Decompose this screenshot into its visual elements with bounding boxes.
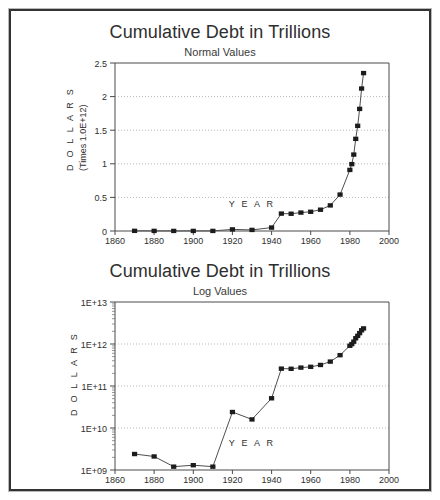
data-point-marker — [230, 227, 235, 231]
x-axis-title-normal: Y E A R — [115, 199, 389, 209]
x-ticks-normal: 1860 1880 1900 1920 1940 1960 1980 2000 — [105, 231, 399, 246]
x-tick-label: 1920 — [222, 475, 242, 485]
chart-svg-log: D O L L A R S — [11, 298, 429, 486]
data-point-marker — [308, 210, 313, 214]
x-tick-label: 2000 — [379, 236, 399, 246]
chart-panel-normal: Cumulative Debt in Trillions Normal Valu… — [11, 11, 429, 250]
data-point-marker — [171, 229, 176, 233]
y-tick-label: 1E+11 — [81, 382, 107, 392]
y-ticks-log: 1E+09 1E+10 1E+11 1E+12 1E+13 — [81, 298, 115, 476]
data-point-marker — [269, 396, 274, 400]
y-tick-label: 1.5 — [94, 126, 107, 136]
data-point-marker — [318, 363, 323, 367]
data-point-marker — [298, 210, 303, 214]
data-point-marker — [210, 464, 215, 468]
page-root: Cumulative Debt in Trillions Normal Valu… — [0, 0, 440, 500]
x-tick-label: 1960 — [301, 236, 321, 246]
data-point-marker — [279, 211, 284, 215]
chart-subtitle-log: Log Values — [11, 285, 429, 297]
x-tick-label: 1940 — [262, 475, 282, 485]
y-tick-label: 2 — [102, 92, 107, 102]
data-point-marker — [353, 137, 358, 141]
y-tick-label: 1E+09 — [81, 466, 107, 476]
y-tick-label: 0.5 — [94, 193, 107, 203]
x-tick-label: 1920 — [222, 236, 242, 246]
data-point-marker — [361, 71, 366, 75]
y-tick-label: 1 — [102, 159, 107, 169]
x-tick-label: 1940 — [262, 236, 282, 246]
y-tick-label: 0 — [102, 227, 107, 237]
data-point-marker — [132, 229, 137, 233]
y-axis-title-log: D O L L A R S — [69, 332, 79, 416]
gridlines-log — [115, 344, 389, 428]
y-axis-subtitle-normal: (Times 1.0E+12) — [78, 105, 88, 171]
data-point-marker — [210, 229, 215, 233]
chart-subtitle-normal: Normal Values — [11, 46, 429, 58]
data-point-marker — [289, 212, 294, 216]
data-point-marker — [191, 463, 196, 467]
scanned-page-frame: Cumulative Debt in Trillions Normal Valu… — [9, 9, 431, 491]
data-point-marker — [171, 464, 176, 468]
chart-panel-log: Cumulative Debt in Trillions Log Values … — [11, 250, 429, 489]
data-point-marker — [298, 365, 303, 369]
x-tick-label: 1900 — [183, 236, 203, 246]
y-axis-title-normal: D O L L A R S — [65, 87, 75, 171]
x-tick-label: 1980 — [340, 236, 360, 246]
data-point-marker — [347, 168, 352, 172]
chart-title-normal: Cumulative Debt in Trillions — [11, 22, 429, 43]
data-point-marker — [152, 229, 157, 233]
y-ticks-normal: 0 0.5 1 1.5 2 2.5 — [94, 59, 115, 237]
data-point-marker — [249, 228, 254, 232]
plot-area-log: D O L L A R S — [11, 298, 429, 486]
data-point-marker — [351, 152, 356, 156]
chart-title-log: Cumulative Debt in Trillions — [11, 261, 429, 282]
data-point-marker — [328, 359, 333, 363]
data-point-marker — [349, 162, 354, 166]
y-tick-label: 1E+12 — [81, 340, 107, 350]
x-tick-label: 1880 — [144, 236, 164, 246]
x-tick-label: 1980 — [340, 475, 360, 485]
x-tick-label: 1860 — [105, 236, 125, 246]
y-tick-label: 2.5 — [94, 59, 107, 69]
data-point-marker — [279, 366, 284, 370]
x-tick-label: 2000 — [379, 475, 399, 485]
data-point-marker — [359, 86, 364, 90]
x-tick-label: 1880 — [144, 475, 164, 485]
x-tick-label: 1900 — [183, 475, 203, 485]
data-point-marker — [308, 365, 313, 369]
x-ticks-log: 1860 1880 1900 1920 1940 1960 1980 2000 — [105, 470, 399, 485]
chart-svg-normal: D O L L A R S (Times 1.0E+12) — [11, 59, 429, 247]
data-point-marker — [355, 124, 360, 128]
x-tick-label: 1860 — [105, 475, 125, 485]
x-axis-title-log: Y E A R — [115, 438, 389, 448]
y-tick-label: 1E+10 — [81, 424, 107, 434]
data-point-marker — [132, 452, 137, 456]
data-point-marker — [337, 353, 342, 357]
data-point-marker — [152, 454, 157, 458]
data-point-marker — [191, 229, 196, 233]
data-point-marker — [249, 417, 254, 421]
plot-area-normal: D O L L A R S (Times 1.0E+12) — [11, 59, 429, 247]
data-point-marker — [269, 225, 274, 229]
data-point-marker — [230, 410, 235, 414]
data-point-marker — [289, 367, 294, 371]
data-point-marker — [357, 107, 362, 111]
y-tick-label: 1E+13 — [81, 298, 107, 308]
x-tick-label: 1960 — [301, 475, 321, 485]
gridlines-normal — [115, 97, 389, 198]
data-point-marker — [337, 192, 342, 196]
data-point-marker — [361, 326, 366, 330]
